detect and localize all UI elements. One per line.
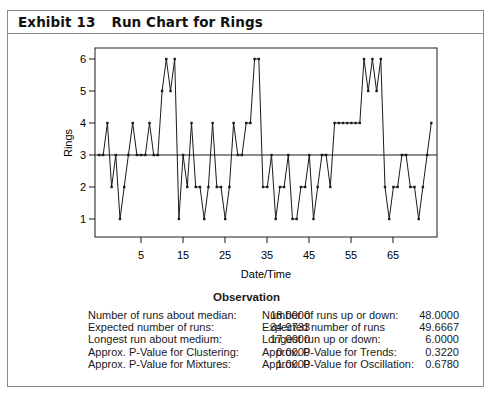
y-tick-label: 6 [80, 53, 86, 65]
plot-frame [95, 48, 437, 237]
data-point [190, 122, 192, 124]
data-point [119, 218, 121, 220]
stat-row: Expected number of runs49.6667 [262, 321, 459, 333]
stat-value: 49.6667 [409, 321, 459, 333]
stat-row: Approx. P-Value for Trends:0.3220 [262, 346, 459, 358]
data-point [132, 122, 134, 124]
data-point [195, 186, 197, 188]
x-axis-label: Date/Time [241, 268, 291, 280]
data-point [115, 154, 117, 156]
data-point [283, 186, 285, 188]
stat-value: 0.6780 [409, 358, 459, 370]
data-point [266, 186, 268, 188]
x-tick-label: 5 [138, 249, 144, 261]
data-point [354, 122, 356, 124]
data-point [405, 154, 407, 156]
data-point [291, 218, 293, 220]
y-tick-label: 3 [80, 149, 86, 161]
data-point [392, 186, 394, 188]
data-point [157, 154, 159, 156]
data-point [380, 58, 382, 60]
stat-row: Number of runs up or down:48.0000 [262, 309, 459, 321]
stat-label: Expected number of runs [262, 321, 409, 333]
data-point [169, 90, 171, 92]
y-tick-label: 5 [80, 85, 86, 97]
data-point [367, 90, 369, 92]
data-point [371, 58, 373, 60]
data-point [148, 122, 150, 124]
data-point [241, 154, 243, 156]
data-point [308, 154, 310, 156]
data-point [287, 154, 289, 156]
data-point [270, 154, 272, 156]
data-point [262, 186, 264, 188]
x-axis: 5152535455565 [138, 237, 399, 261]
data-point [140, 154, 142, 156]
data-point [161, 90, 163, 92]
y-tick-label: 1 [80, 213, 86, 225]
data-point [375, 90, 377, 92]
data-point [300, 186, 302, 188]
data-point [102, 154, 104, 156]
data-point [249, 122, 251, 124]
data-point [224, 218, 226, 220]
x-tick-label: 45 [303, 249, 315, 261]
stat-label: Longest run about medium: [88, 333, 260, 345]
data-point [203, 218, 205, 220]
data-point [144, 154, 146, 156]
data-series-line [99, 59, 431, 219]
x-tick-label: 55 [345, 249, 357, 261]
data-point [106, 122, 108, 124]
stat-value: 0.3220 [409, 346, 459, 358]
data-point [401, 154, 403, 156]
data-point [136, 154, 138, 156]
stat-label: Longest run up or down: [262, 333, 409, 345]
y-axis: 123456 [80, 53, 95, 225]
data-point [245, 122, 247, 124]
data-point [182, 154, 184, 156]
stat-label: Approx. P-Value for Oscillation: [262, 358, 409, 370]
data-point [346, 122, 348, 124]
data-point [153, 154, 155, 156]
stats-title: Observation [0, 291, 493, 303]
data-point [329, 186, 331, 188]
stat-label: Number of runs about median: [88, 309, 260, 321]
data-point [409, 186, 411, 188]
data-point [207, 186, 209, 188]
data-point [359, 122, 361, 124]
data-point [312, 218, 314, 220]
data-point [430, 122, 432, 124]
data-point [325, 154, 327, 156]
data-point [317, 186, 319, 188]
data-point [123, 186, 125, 188]
stat-label: Expected number of runs: [88, 321, 260, 333]
data-point [333, 122, 335, 124]
x-tick-label: 25 [219, 249, 231, 261]
data-point [216, 186, 218, 188]
data-point [418, 218, 420, 220]
data-point [304, 186, 306, 188]
data-point [174, 58, 176, 60]
data-point [110, 186, 112, 188]
data-point [350, 122, 352, 124]
data-point [220, 186, 222, 188]
stats-right-column: Number of runs up or down:48.0000 Expect… [262, 309, 459, 370]
data-point [296, 218, 298, 220]
data-point [388, 218, 390, 220]
data-point [178, 218, 180, 220]
data-point [258, 58, 260, 60]
run-chart: 123456 5152535455565 Rings Date/Time [0, 0, 493, 290]
data-point [338, 122, 340, 124]
data-point [98, 154, 100, 156]
data-point [342, 122, 344, 124]
data-point [413, 186, 415, 188]
data-point [127, 154, 129, 156]
stat-label: Approx. P-Value for Mixtures: [88, 358, 260, 370]
data-point [363, 58, 365, 60]
data-point [275, 218, 277, 220]
x-tick-label: 15 [177, 249, 189, 261]
data-point [426, 154, 428, 156]
data-point [199, 186, 201, 188]
stat-label: Number of runs up or down: [262, 309, 409, 321]
data-point [228, 186, 230, 188]
